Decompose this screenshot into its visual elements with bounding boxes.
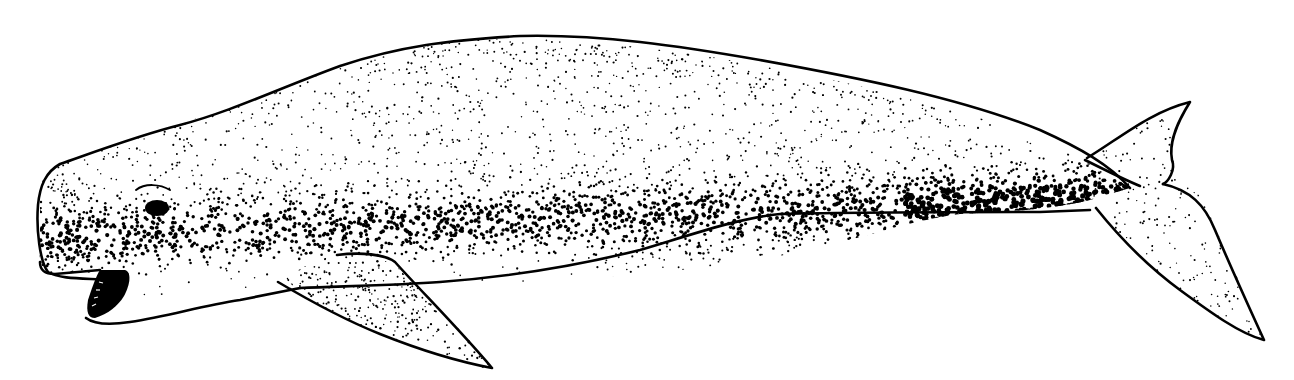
body-stippling [33, 29, 1137, 301]
tail-fluke-upper [1087, 102, 1190, 184]
tail-fluke-lower [1096, 184, 1264, 340]
open-mouth [87, 270, 129, 318]
tail-stippling [1085, 99, 1265, 342]
belly-outline [300, 210, 1090, 288]
body-outline [37, 36, 1130, 280]
eye-brow-wrinkle [136, 185, 170, 190]
eye [145, 200, 169, 216]
beluga-whale-illustration [0, 0, 1294, 380]
flipper-stippling [279, 249, 496, 373]
pectoral-flipper [278, 254, 492, 368]
illustration-canvas [0, 0, 1294, 380]
